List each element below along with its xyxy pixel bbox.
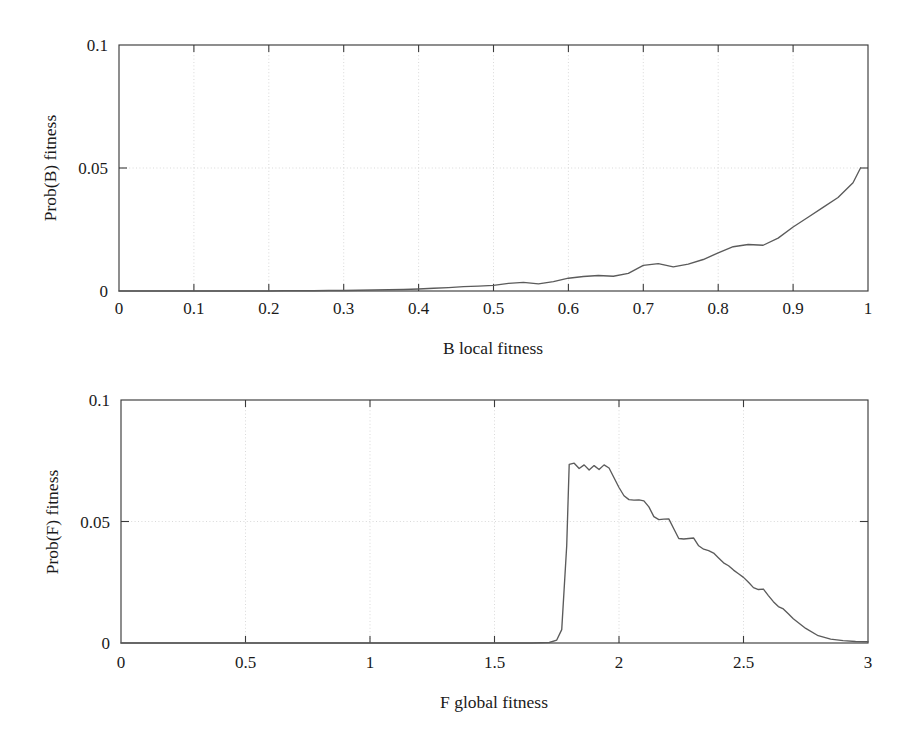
grid-lines-top <box>119 45 868 291</box>
prob-f-global-fitness-chart: 00.511.522.53 00.050.1 F global fitness … <box>0 370 916 740</box>
grid-lines-bottom <box>121 400 868 643</box>
x-tick-label: 3 <box>864 653 873 672</box>
x-tick-label: 0.1 <box>183 299 204 318</box>
y-axis-title: Prob(B) fitness <box>40 115 60 222</box>
x-tick-label: 0.5 <box>235 653 256 672</box>
x-tick-label: 0.3 <box>333 299 354 318</box>
x-tick-label: 2 <box>615 653 624 672</box>
x-tick-label: 0 <box>117 653 126 672</box>
x-tick-label: 0.7 <box>633 299 655 318</box>
y-tick-label: 0 <box>100 282 109 301</box>
y-tick-labels-bottom: 00.050.1 <box>80 391 110 653</box>
chart-panel-prob-f: 00.511.522.53 00.050.1 F global fitness … <box>0 370 916 740</box>
x-tick-label: 0.9 <box>782 299 803 318</box>
plot-frame <box>121 400 868 643</box>
x-tick-labels-bottom: 00.511.522.53 <box>117 653 873 672</box>
tick-marks-bottom <box>121 400 868 643</box>
chart-panel-prob-b: 00.10.20.30.40.50.60.70.80.91 00.050.1 B… <box>0 0 916 370</box>
x-tick-label: 1 <box>366 653 375 672</box>
x-tick-label: 0.2 <box>258 299 279 318</box>
x-tick-label: 0.8 <box>708 299 729 318</box>
y-tick-label: 0.05 <box>78 159 108 178</box>
prob-b-local-fitness-chart: 00.10.20.30.40.50.60.70.80.91 00.050.1 B… <box>0 0 916 370</box>
y-tick-label: 0.1 <box>87 36 108 55</box>
x-tick-label: 1 <box>864 299 873 318</box>
x-tick-label: 0 <box>115 299 124 318</box>
x-tick-label: 2.5 <box>733 653 754 672</box>
y-axis-title: Prob(F) fitness <box>42 470 62 575</box>
x-tick-labels-top: 00.10.20.30.40.50.60.70.80.91 <box>115 299 873 318</box>
x-tick-label: 0.6 <box>558 299 579 318</box>
x-tick-label: 0.5 <box>483 299 504 318</box>
x-tick-label: 0.4 <box>408 299 430 318</box>
x-tick-label: 1.5 <box>484 653 505 672</box>
data-series-line <box>119 168 861 291</box>
figure-container: 00.10.20.30.40.50.60.70.80.91 00.050.1 B… <box>0 0 916 740</box>
y-tick-label: 0.05 <box>80 513 110 532</box>
y-tick-label: 0.1 <box>89 391 110 410</box>
x-axis-title: F global fitness <box>440 692 548 712</box>
y-tick-labels-top: 00.050.1 <box>78 36 108 301</box>
y-tick-label: 0 <box>102 634 111 653</box>
x-axis-title: B local fitness <box>443 338 543 358</box>
